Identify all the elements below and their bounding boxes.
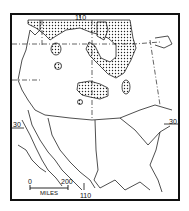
- range-area-north: [28, 20, 136, 78]
- range-area-central: [77, 81, 108, 99]
- range-area-island-1: [51, 43, 61, 55]
- longitude-label-top: 110: [75, 14, 86, 21]
- range-area-island-2: [55, 63, 62, 70]
- graticule-ticks: [12, 13, 178, 190]
- scale-unit-label: MILES: [40, 190, 58, 197]
- scale-end-label: 200: [61, 178, 73, 185]
- range-areas: [28, 20, 136, 105]
- latitude-label-left: 30: [13, 121, 21, 128]
- latitude-label-right: 30: [169, 118, 177, 125]
- longitude-label-bottom: 110: [80, 192, 91, 199]
- range-area-island-3: [122, 80, 130, 94]
- scale-start-label: 0: [28, 178, 32, 185]
- range-area-island-4: [78, 100, 83, 105]
